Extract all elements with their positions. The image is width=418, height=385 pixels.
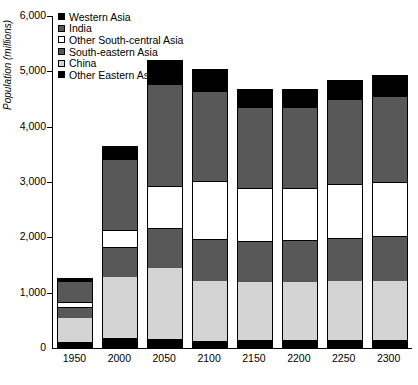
legend-label: Western Asia: [69, 11, 131, 23]
bar-segment: [282, 340, 318, 348]
legend-item[interactable]: Other South-central Asia: [58, 34, 183, 46]
bar-segment: [237, 89, 273, 108]
bar-segment: [102, 338, 138, 348]
bar-segment: [372, 97, 408, 182]
legend-item[interactable]: Other Eastern Asia: [58, 69, 183, 81]
bar-segment: [282, 89, 318, 108]
bar-segment: [102, 160, 138, 230]
bar-2150[interactable]: [237, 89, 273, 348]
y-tick-mark: [47, 293, 52, 294]
legend-label: China: [69, 57, 96, 69]
legend-item[interactable]: China: [58, 57, 183, 69]
y-tick-mark: [47, 182, 52, 183]
y-axis-tick-labels: 6,0005,0004,0003,0002,0001,0000: [0, 0, 46, 385]
population-stacked-bar-chart: Population (millions) 6,0005,0004,0003,0…: [0, 0, 418, 385]
bar-segment: [192, 92, 228, 182]
bar-segment: [372, 75, 408, 97]
bar-2050[interactable]: [147, 60, 183, 348]
bar-segment: [102, 146, 138, 160]
bar-segment: [147, 268, 183, 339]
x-tick-label-2000: 2000: [96, 352, 142, 364]
bar-segment: [192, 69, 228, 92]
bar-segment: [237, 340, 273, 348]
chart-legend: Western AsiaIndiaOther South-central Asi…: [58, 11, 183, 81]
y-tick-label: 4,000: [8, 120, 46, 132]
bar-segment: [237, 108, 273, 188]
bar-2100[interactable]: [192, 69, 228, 348]
bar-2250[interactable]: [327, 80, 363, 348]
x-axis-tick-labels: 19502000205021002150220022502300: [52, 352, 412, 374]
bar-segment: [147, 186, 183, 229]
bar-segment: [147, 229, 183, 268]
bar-segment: [57, 282, 93, 302]
bar-segment: [372, 340, 408, 348]
bar-segment: [102, 230, 138, 248]
legend-item[interactable]: Western Asia: [58, 11, 183, 23]
legend-swatch-icon: [58, 71, 65, 78]
bar-segment: [57, 342, 93, 348]
bar-segment: [192, 281, 228, 341]
y-tick-label: 3,000: [8, 175, 46, 187]
legend-label: South-eastern Asia: [69, 46, 158, 58]
legend-label: Other South-central Asia: [69, 34, 183, 46]
y-tick-mark: [47, 71, 52, 72]
bar-segment: [237, 282, 273, 340]
y-tick-mark: [47, 16, 52, 17]
legend-swatch-icon: [58, 25, 65, 32]
x-tick-label-2150: 2150: [231, 352, 277, 364]
bar-segment: [327, 340, 363, 348]
bar-segment: [147, 339, 183, 348]
x-tick-label-2100: 2100: [186, 352, 232, 364]
y-tick-label: 1,000: [8, 286, 46, 298]
x-tick-label-2250: 2250: [321, 352, 367, 364]
bar-1950[interactable]: [57, 278, 93, 348]
bar-segment: [237, 242, 273, 282]
bar-2000[interactable]: [102, 146, 138, 348]
x-tick-label-2050: 2050: [141, 352, 187, 364]
bar-segment: [327, 281, 363, 340]
bar-segment: [192, 181, 228, 239]
legend-label: Other Eastern Asia: [69, 69, 157, 81]
bar-segment: [372, 237, 408, 281]
bar-segment: [327, 239, 363, 281]
bar-segment: [57, 318, 93, 343]
legend-item[interactable]: South-eastern Asia: [58, 46, 183, 58]
bar-segment: [102, 248, 138, 277]
x-tick-label-1950: 1950: [51, 352, 97, 364]
bar-segment: [327, 100, 363, 184]
bar-segment: [237, 188, 273, 243]
bar-segment: [282, 188, 318, 241]
legend-swatch-icon: [58, 36, 65, 43]
legend-swatch-icon: [58, 60, 65, 67]
bar-segment: [192, 240, 228, 281]
bar-segment: [282, 241, 318, 282]
y-tick-label: 6,000: [8, 9, 46, 21]
legend-swatch-icon: [58, 48, 65, 55]
bar-segment: [372, 281, 408, 340]
bar-segment: [327, 184, 363, 239]
bar-segment: [57, 308, 93, 318]
y-tick-label: 0: [8, 341, 46, 353]
y-tick-label: 5,000: [8, 64, 46, 76]
bar-2300[interactable]: [372, 75, 408, 348]
bar-segment: [372, 182, 408, 237]
bar-segment: [282, 108, 318, 188]
bar-segment: [102, 277, 138, 338]
bar-segment: [327, 80, 363, 100]
x-tick-label-2300: 2300: [366, 352, 412, 364]
y-tick-mark: [47, 237, 52, 238]
legend-item[interactable]: India: [58, 23, 183, 35]
x-axis-line: [52, 348, 412, 349]
bar-segment: [282, 282, 318, 340]
y-tick-mark: [47, 127, 52, 128]
x-tick-label-2200: 2200: [276, 352, 322, 364]
legend-label: India: [69, 22, 92, 34]
bar-segment: [192, 341, 228, 348]
legend-swatch-icon: [58, 13, 65, 20]
bar-2200[interactable]: [282, 89, 318, 348]
bar-segment: [147, 85, 183, 186]
y-tick-label: 2,000: [8, 230, 46, 242]
